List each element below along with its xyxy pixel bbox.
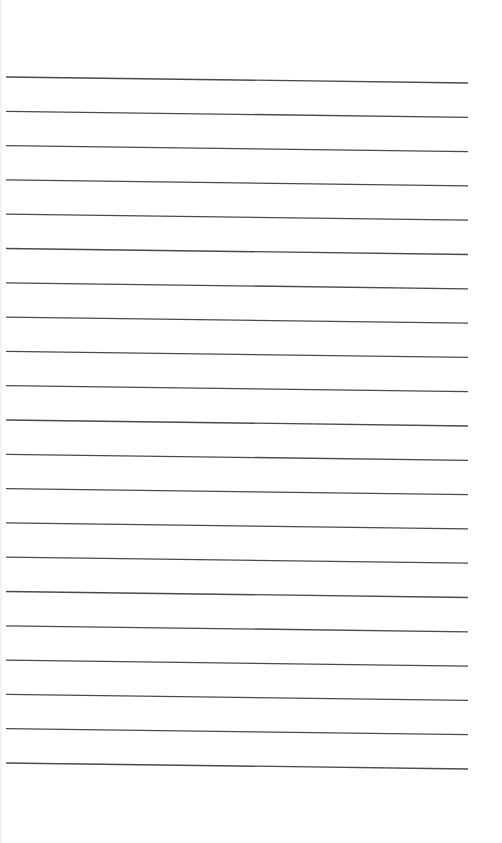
ruled-line (6, 317, 468, 323)
ruled-line (6, 694, 468, 700)
ruled-line (6, 420, 468, 426)
ruled-line (6, 557, 468, 563)
ruled-line (6, 592, 468, 598)
ruled-line (6, 77, 468, 83)
ruled-line (6, 660, 468, 666)
ruled-line (6, 489, 468, 495)
ruled-line (6, 729, 468, 735)
ruled-line (6, 523, 468, 529)
ruled-line (6, 214, 468, 220)
ruled-line (6, 180, 468, 186)
lined-paper (0, 0, 502, 843)
ruled-line (6, 351, 468, 357)
ruled-line (6, 763, 468, 769)
ruled-line (6, 454, 468, 460)
ruled-line (6, 249, 468, 255)
ruled-line (6, 146, 468, 152)
ruled-line (6, 386, 468, 392)
ruled-line (6, 111, 468, 117)
ruled-line (6, 626, 468, 632)
ruled-line (6, 283, 468, 289)
